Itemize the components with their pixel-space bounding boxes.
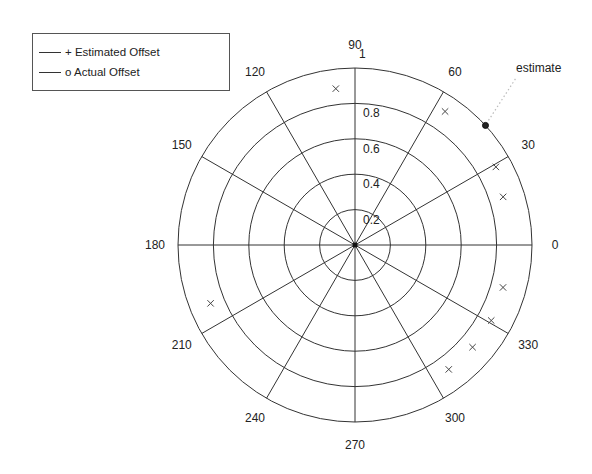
legend-line-icon (39, 72, 61, 73)
radial-tick-label: 0.2 (363, 213, 380, 227)
radial-tick-labels: 0.20.40.60.81 (359, 47, 380, 227)
angle-tick-label: 150 (172, 138, 192, 152)
angle-spoke (355, 157, 508, 246)
radial-tick-label: 0.8 (363, 106, 380, 120)
origin-dot (353, 243, 358, 248)
x-marker-icon (500, 194, 506, 200)
annotation-leader (488, 78, 516, 120)
angle-tick-label: 210 (172, 338, 192, 352)
x-marker-icon (488, 317, 494, 323)
angle-spoke (355, 245, 444, 398)
angle-tick-label: 30 (522, 138, 536, 152)
circle-marker-icon (482, 122, 488, 128)
data-markers (207, 85, 506, 372)
legend-line-icon (39, 52, 61, 53)
x-marker-icon (493, 164, 499, 170)
angle-spoke (202, 157, 355, 246)
legend: + Estimated Offset o Actual Offset (32, 33, 230, 91)
angle-tick-label: 60 (448, 65, 462, 79)
legend-label: + Estimated Offset (65, 46, 160, 58)
radial-tick-label: 0.4 (363, 177, 380, 191)
annotation-label: estimate (516, 61, 562, 75)
angle-tick-label: 270 (345, 438, 365, 452)
x-marker-icon (442, 108, 448, 114)
x-marker-icon (333, 85, 339, 91)
x-marker-icon (469, 344, 475, 350)
x-marker-icon (500, 284, 506, 290)
angle-spoke (267, 92, 356, 245)
radial-tick-label: 1 (359, 47, 366, 61)
angle-spoke (202, 245, 355, 334)
legend-item-estimated: + Estimated Offset (39, 44, 160, 60)
angle-spoke (355, 245, 508, 334)
angle-tick-label: 300 (445, 411, 465, 425)
legend-label: o Actual Offset (65, 66, 140, 78)
annotations: estimate (488, 61, 561, 120)
x-marker-icon (207, 300, 213, 306)
angle-tick-label: 120 (245, 65, 265, 79)
angle-tick-label: 180 (145, 238, 165, 252)
angle-spoke (267, 245, 356, 398)
x-marker-icon (446, 366, 452, 372)
radial-tick-label: 0.6 (363, 142, 380, 156)
angle-tick-label: 240 (245, 411, 265, 425)
angle-tick-label: 0 (552, 238, 559, 252)
angle-tick-label: 330 (518, 338, 538, 352)
legend-item-actual: o Actual Offset (39, 64, 140, 80)
polar-grid (178, 68, 532, 422)
